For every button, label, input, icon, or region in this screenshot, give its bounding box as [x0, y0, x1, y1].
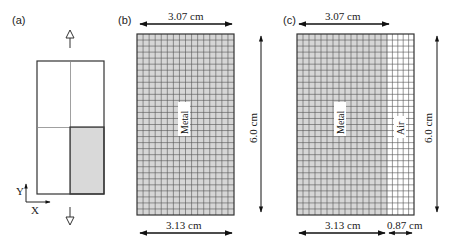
svg-text:Air: Air	[395, 121, 406, 135]
hollow-down-arrow-icon	[66, 207, 74, 225]
bottom-dimension-label: 3.13 cm	[166, 219, 202, 231]
top-dimension-label: 3.07 cm	[325, 10, 361, 22]
air-width-label: 0.87 cm	[387, 219, 423, 231]
axis-indicator: Y X	[16, 184, 50, 216]
height-dimension-label: 6.0 cm	[422, 113, 434, 143]
svg-text:Metal: Metal	[179, 110, 190, 134]
air-label: Air	[394, 116, 406, 138]
shaded-quadrant	[70, 127, 104, 194]
height-dimension-label: 6.0 cm	[247, 113, 259, 143]
hollow-up-arrow-icon	[66, 30, 74, 48]
diagram-canvas: (a) Y X (b) 3.07 cm	[0, 0, 456, 250]
panel-b: (b) 3.07 cm Metal 6.0 cm 3.13 cm	[118, 10, 261, 233]
panel-b-label: (b)	[118, 14, 131, 26]
panel-a-label: (a)	[12, 14, 25, 26]
metal-label: Metal	[178, 102, 190, 136]
y-axis-label: Y	[16, 185, 24, 197]
metal-width-label: 3.13 cm	[325, 219, 361, 231]
top-dimension-label: 3.07 cm	[168, 10, 204, 22]
panel-c: (c) 3.07 cm Metal Air 6.0 cm 3.13 cm 0.8…	[283, 10, 437, 233]
metal-label: Metal	[334, 102, 346, 136]
panel-c-label: (c)	[283, 14, 296, 26]
svg-text:Metal: Metal	[335, 110, 346, 134]
panel-a: (a) Y X	[12, 14, 104, 225]
x-axis-label: X	[31, 204, 39, 216]
